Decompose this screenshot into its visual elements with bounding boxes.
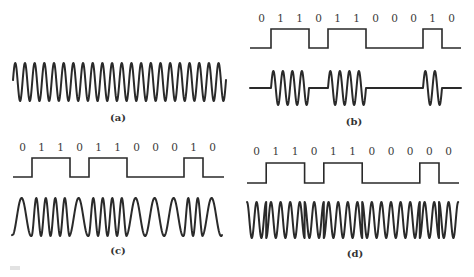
bit-label: 1	[349, 145, 356, 157]
bit-label: 0	[426, 145, 433, 157]
bit-label: 0	[19, 141, 26, 153]
bit-label: 0	[152, 141, 159, 153]
bit-label: 1	[429, 12, 436, 24]
binary-signal-b	[250, 29, 461, 48]
bit-label: 1	[114, 141, 121, 153]
bit-label: 0	[368, 145, 375, 157]
binary-signal-c	[13, 158, 224, 177]
bit-label: 0	[76, 141, 83, 153]
panel-c: 01101100010 (c)	[12, 141, 224, 256]
bit-label: 0	[209, 141, 216, 153]
panel-label-b: (b)	[346, 116, 362, 127]
panel-b: 01101100010 (b)	[250, 12, 461, 127]
bit-label: 1	[353, 12, 360, 24]
bit-label: 1	[95, 141, 102, 153]
bit-label: 0	[391, 12, 398, 24]
bit-label: 0	[133, 141, 140, 153]
bit-labels-d: 01101100000	[253, 145, 452, 157]
binary-signal-d	[247, 163, 459, 183]
bit-label: 1	[57, 141, 64, 153]
bit-label: 0	[258, 12, 265, 24]
bit-label: 1	[330, 145, 337, 157]
bit-label: 0	[407, 145, 414, 157]
bit-labels-b: 01101100010	[258, 12, 455, 24]
bit-label: 1	[334, 12, 341, 24]
cropped-caption-fragment	[10, 266, 20, 270]
fsk-waveform	[12, 198, 222, 236]
bit-label: 1	[190, 141, 197, 153]
bit-label: 1	[272, 145, 279, 157]
panel-label-c: (c)	[110, 245, 126, 256]
bit-label: 1	[277, 12, 284, 24]
panel-label-d: (d)	[347, 248, 363, 259]
bit-label: 1	[38, 141, 45, 153]
panel-d: 01101100000 (d)	[247, 145, 459, 259]
modulation-figure: (a) 01101100010 (b) 01101100010 (c) 0110…	[0, 0, 474, 277]
bit-label: 0	[171, 141, 178, 153]
panel-label-a: (a)	[110, 112, 126, 123]
carrier-waveform	[13, 63, 226, 101]
bit-label: 0	[253, 145, 260, 157]
bit-label: 0	[448, 12, 455, 24]
panel-a: (a)	[13, 63, 226, 123]
bit-label: 0	[372, 12, 379, 24]
psk-waveform	[247, 202, 458, 238]
bit-labels-c: 01101100010	[19, 141, 216, 153]
bit-label: 1	[296, 12, 303, 24]
bit-label: 0	[445, 145, 452, 157]
bit-label: 0	[311, 145, 318, 157]
bit-label: 0	[388, 145, 395, 157]
ask-waveform	[250, 71, 461, 105]
bit-label: 0	[315, 12, 322, 24]
bit-label: 1	[292, 145, 299, 157]
bit-label: 0	[410, 12, 417, 24]
